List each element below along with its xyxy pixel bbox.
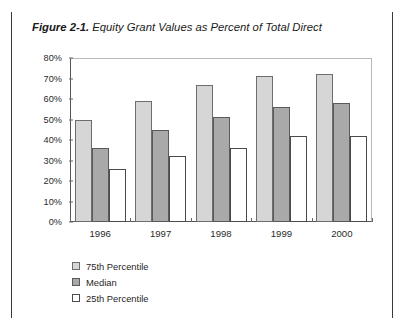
x-tick-mark bbox=[372, 218, 373, 222]
legend-label: 25th Percentile bbox=[86, 293, 149, 304]
y-tick-label: 70% bbox=[44, 74, 62, 84]
y-tick-mark bbox=[69, 160, 73, 161]
legend-label: 75th Percentile bbox=[86, 261, 149, 272]
legend-swatch bbox=[72, 262, 80, 270]
y-tick-mark bbox=[69, 201, 73, 202]
y-tick-label: 40% bbox=[44, 135, 62, 145]
y-tick-mark bbox=[69, 181, 73, 182]
bar-chart: 0%10%20%30%40%50%60%70%80% 1996199719981… bbox=[32, 52, 372, 244]
y-tick-label: 60% bbox=[44, 94, 62, 104]
figure-caption: Equity Grant Values as Percent of Total … bbox=[92, 21, 322, 33]
y-tick-mark bbox=[69, 99, 73, 100]
x-tick-label: 1999 bbox=[251, 224, 311, 244]
x-tick-label: 1997 bbox=[130, 224, 190, 244]
figure-title: Figure 2-1. Equity Grant Values as Perce… bbox=[32, 20, 382, 34]
x-tick-mark bbox=[191, 218, 192, 222]
plot-area bbox=[70, 58, 372, 222]
legend-swatch bbox=[72, 294, 80, 302]
y-tick-label: 20% bbox=[44, 176, 62, 186]
y-tick-mark bbox=[69, 78, 73, 79]
legend-swatch bbox=[72, 278, 80, 286]
y-tick-label: 0% bbox=[49, 217, 62, 227]
x-tick-mark bbox=[130, 218, 131, 222]
x-axis-labels: 19961997199819992000 bbox=[70, 224, 372, 244]
y-tick-mark bbox=[69, 58, 73, 59]
y-axis-labels: 0%10%20%30%40%50%60%70%80% bbox=[32, 52, 68, 244]
x-tick-label: 1998 bbox=[191, 224, 251, 244]
page-rule-right bbox=[392, 12, 393, 318]
legend-item: 75th Percentile bbox=[72, 258, 149, 274]
source-note bbox=[64, 327, 384, 336]
y-tick-label: 50% bbox=[44, 115, 62, 125]
y-tick-mark bbox=[69, 119, 73, 120]
y-tick-label: 80% bbox=[44, 53, 62, 63]
legend-item: Median bbox=[72, 274, 149, 290]
legend-label: Median bbox=[86, 277, 117, 288]
y-tick-label: 30% bbox=[44, 156, 62, 166]
page-rule-left bbox=[11, 12, 12, 318]
legend-item: 25th Percentile bbox=[72, 290, 149, 306]
x-tick-label: 2000 bbox=[312, 224, 372, 244]
x-tick-mark bbox=[251, 218, 252, 222]
x-tick-mark bbox=[70, 218, 71, 222]
y-tick-label: 10% bbox=[44, 197, 62, 207]
x-tick-mark bbox=[312, 218, 313, 222]
chart-legend: 75th PercentileMedian25th Percentile bbox=[72, 258, 149, 306]
x-tick-label: 1996 bbox=[70, 224, 130, 244]
y-tick-mark bbox=[69, 140, 73, 141]
figure-number: Figure 2-1. bbox=[32, 21, 89, 33]
